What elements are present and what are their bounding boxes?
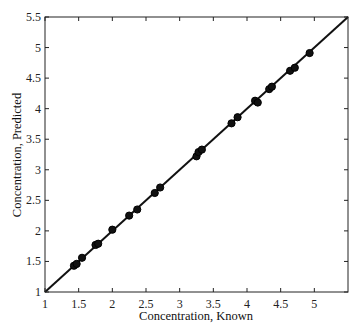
y-tick-label: 5.5 xyxy=(26,10,41,24)
data-point xyxy=(109,226,116,233)
y-axis-title: Concentration, Predicted xyxy=(10,92,24,217)
x-tick-label: 1 xyxy=(42,297,48,311)
x-tick-label: 4.5 xyxy=(273,297,288,311)
x-axis-ticks: 11.522.533.544.55 xyxy=(42,17,317,311)
y-tick-label: 1.5 xyxy=(26,254,41,268)
data-point xyxy=(157,184,164,191)
y-tick-label: 2.5 xyxy=(26,193,41,207)
y-tick-label: 2 xyxy=(35,224,41,238)
y-tick-label: 4 xyxy=(35,102,41,116)
data-point xyxy=(291,64,298,71)
data-point xyxy=(306,49,313,56)
data-point xyxy=(198,146,205,153)
data-point xyxy=(151,189,158,196)
y-tick-label: 3 xyxy=(35,163,41,177)
x-tick-label: 2 xyxy=(109,297,115,311)
data-point xyxy=(126,212,133,219)
y-tick-label: 1 xyxy=(35,285,41,299)
data-point xyxy=(254,99,261,106)
x-axis-title: Concentration, Known xyxy=(139,309,254,323)
x-tick-label: 1.5 xyxy=(71,297,86,311)
y-tick-label: 5 xyxy=(35,41,41,55)
data-point xyxy=(73,260,80,267)
data-point xyxy=(228,120,235,127)
y-tick-label: 4.5 xyxy=(26,71,41,85)
y-tick-label: 3.5 xyxy=(26,132,41,146)
x-tick-label: 5 xyxy=(311,297,317,311)
y-axis-ticks: 11.522.533.544.555.5 xyxy=(26,10,348,299)
data-point xyxy=(134,206,141,213)
scatter-chart: 11.522.533.544.55 11.522.533.544.555.5 C… xyxy=(0,0,361,330)
data-point xyxy=(95,240,102,247)
data-point xyxy=(234,114,241,121)
data-point xyxy=(78,254,85,261)
data-point xyxy=(268,83,275,90)
